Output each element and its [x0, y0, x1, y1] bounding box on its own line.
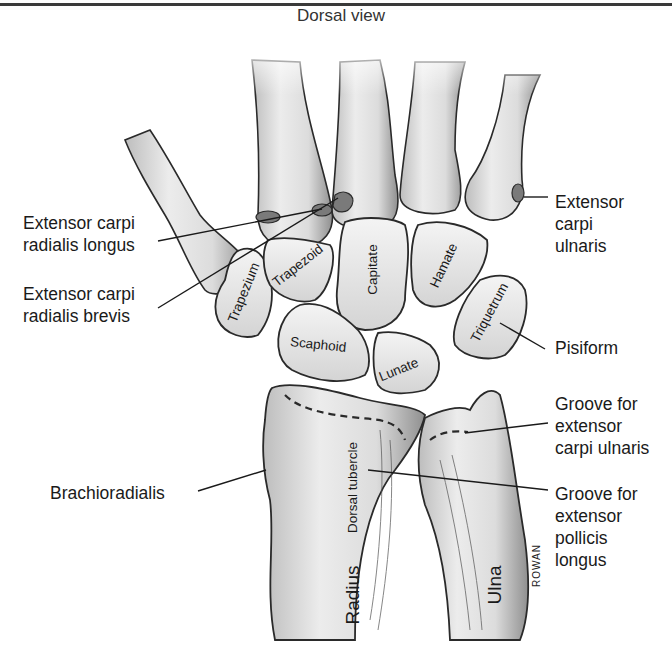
bone-label-dorsal-tubercle: Dorsal tubercle	[345, 442, 360, 533]
label-groove-extensor-carpi-ulnaris: Groove for extensor carpi ulnaris	[555, 393, 649, 459]
label-brachioradialis: Brachioradialis	[50, 482, 165, 504]
label-extensor-carpi-ulnaris: Extensor carpi ulnaris	[555, 191, 624, 257]
label-extensor-carpi-radialis-longus: Extensor carpi radialis longus	[23, 212, 135, 256]
label-extensor-carpi-radialis-brevis: Extensor carpi radialis brevis	[23, 283, 135, 327]
bone-label-capitate: Capitate	[365, 244, 380, 294]
bone-label-ulna: Ulna	[484, 565, 506, 604]
bone-label-radius: Radius	[342, 565, 364, 624]
label-groove-extensor-pollicis-longus: Groove for extensor pollicis longus	[555, 483, 638, 571]
artist-signature: ROWAN	[531, 544, 542, 587]
label-pisiform: Pisiform	[555, 337, 618, 359]
